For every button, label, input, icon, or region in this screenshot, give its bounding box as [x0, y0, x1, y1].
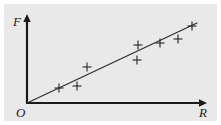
- y-axis-group: [23, 14, 30, 103]
- x-axis-label: R: [199, 106, 207, 119]
- y-axis-label: F: [13, 15, 21, 28]
- data-point-marker: [174, 35, 183, 44]
- data-point-marker: [83, 63, 92, 72]
- x-axis-group: [26, 99, 207, 106]
- data-point-marker: [133, 56, 142, 65]
- data-point-marker: [134, 41, 143, 50]
- data-point-marker: [73, 82, 82, 91]
- y-axis-arrowhead: [23, 14, 30, 22]
- data-point-marker: [55, 84, 64, 93]
- scatter-plot-figure: F O R: [0, 0, 221, 125]
- plot-canvas: [0, 0, 221, 125]
- data-point-marker: [188, 22, 197, 31]
- best-fit-line: [27, 23, 197, 103]
- origin-label: O: [16, 106, 25, 119]
- data-point-marker: [156, 39, 165, 48]
